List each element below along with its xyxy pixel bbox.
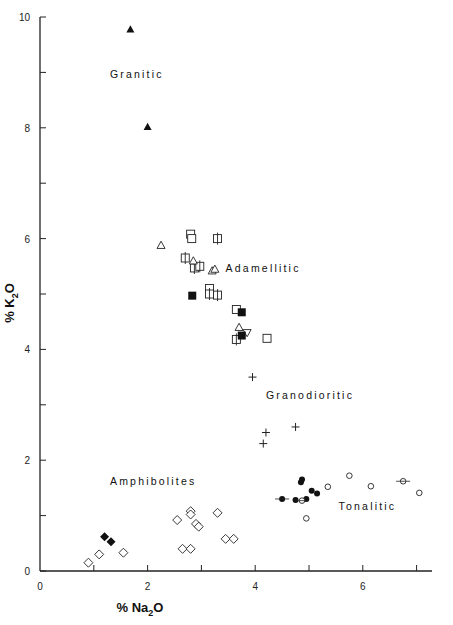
open-diamond-marker xyxy=(95,550,104,559)
filled-square-marker xyxy=(188,292,196,300)
x-axis-title: % Na2O xyxy=(117,600,164,618)
filled-square-marker xyxy=(238,308,246,316)
open-diamond-marker xyxy=(186,544,195,553)
filled-circle-marker xyxy=(299,477,305,483)
y-tick-label: 4 xyxy=(24,344,30,355)
region-label-granodioritic: Granodioritic xyxy=(266,389,354,401)
open-circle-marker xyxy=(368,483,374,489)
filled-square-marker xyxy=(238,332,246,340)
region-labels: GraniticAdamelliticGranodioriticAmphibol… xyxy=(110,68,396,512)
scatter-chart: 02468100246 GraniticAdamelliticGranodior… xyxy=(0,0,453,625)
filled-triangle-marker xyxy=(144,123,152,130)
filled-circle-marker xyxy=(293,497,299,503)
open-circle-marker xyxy=(325,484,331,490)
open-triangle-marker xyxy=(157,241,165,248)
filled-diamond-marker xyxy=(100,532,109,541)
region-label-adamellitic: Adamellitic xyxy=(226,262,301,274)
y-tick-label: 6 xyxy=(24,234,30,245)
y-tick-label: 2 xyxy=(24,455,30,466)
x-tick-label: 4 xyxy=(252,581,258,592)
region-label-granitic: Granitic xyxy=(110,68,164,80)
open-triangle-marker xyxy=(189,257,197,264)
open-triangle-marker xyxy=(235,323,243,330)
filled-circle-marker xyxy=(309,488,315,494)
open-diamond-marker xyxy=(84,558,93,567)
open-diamond-marker xyxy=(173,516,182,525)
open-circle-marker xyxy=(347,473,353,479)
open-circle-marker xyxy=(416,490,422,496)
y-tick-label: 0 xyxy=(24,566,30,577)
y-tick-label: 10 xyxy=(19,12,31,23)
open-circle-marker xyxy=(304,516,310,522)
x-tick-label: 6 xyxy=(360,581,366,592)
x-tick-label: 0 xyxy=(37,581,43,592)
open-diamond-marker xyxy=(229,534,238,543)
open-diamond-marker xyxy=(119,548,128,557)
filled-diamond-marker xyxy=(107,537,116,546)
open-square-marker xyxy=(263,334,271,342)
y-axis-title: % K2O xyxy=(2,283,20,323)
x-tick-label: 2 xyxy=(145,581,151,592)
filled-circle-marker xyxy=(314,490,320,496)
region-label-amphibolites: Amphibolites xyxy=(110,475,197,487)
y-tick-label: 8 xyxy=(24,123,30,134)
open-square-marker xyxy=(188,235,196,243)
filled-triangle-marker xyxy=(126,25,134,32)
region-label-tonalitic: Tonalitic xyxy=(339,500,397,512)
open-diamond-marker xyxy=(213,508,222,517)
